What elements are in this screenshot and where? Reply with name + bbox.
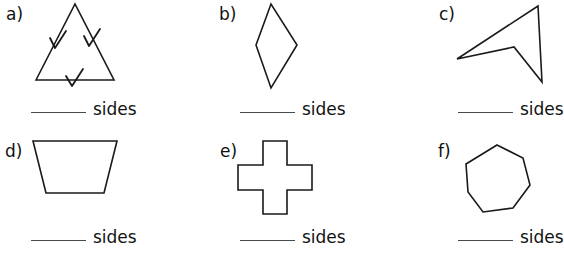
sides-label-d: sides: [93, 229, 137, 246]
sides-label-f: sides: [520, 229, 564, 246]
sides-label-b: sides: [302, 101, 346, 118]
shape-cross-polygon: [186, 134, 372, 226]
problem-d: d) sides: [0, 134, 186, 264]
answer-blank-e[interactable]: [240, 240, 295, 241]
sides-label-c: sides: [520, 101, 564, 118]
shape-trapezoid: [0, 134, 186, 226]
answer-blank-a[interactable]: [31, 112, 86, 113]
answer-blank-b[interactable]: [240, 112, 295, 113]
sides-label-a: sides: [93, 101, 137, 118]
shape-equilateral-triangle: [0, 0, 186, 100]
answer-blank-f[interactable]: [458, 240, 513, 241]
answer-line-f: sides: [458, 229, 564, 246]
shape-heptagon: [372, 134, 560, 226]
answer-line-c: sides: [458, 101, 564, 118]
sides-label-e: sides: [302, 229, 346, 246]
problem-f: f) sides: [372, 134, 558, 264]
answer-line-b: sides: [240, 101, 346, 118]
problem-a: a) sides: [0, 0, 186, 130]
problem-c: c) sides: [372, 0, 558, 130]
shape-rhombus: [186, 0, 372, 100]
answer-blank-c[interactable]: [458, 112, 513, 113]
problem-b: b) sides: [186, 0, 372, 130]
problem-e: e) sides: [186, 134, 372, 264]
answer-line-d: sides: [31, 229, 137, 246]
answer-line-e: sides: [240, 229, 346, 246]
answer-blank-d[interactable]: [31, 240, 86, 241]
answer-line-a: sides: [31, 101, 137, 118]
shape-concave-arrowhead: [372, 0, 560, 100]
